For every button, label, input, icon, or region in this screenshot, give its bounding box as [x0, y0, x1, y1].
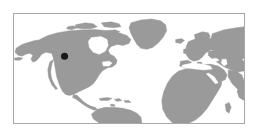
world-map-figure	[0, 0, 258, 138]
marker-layer-svg	[61, 53, 68, 60]
map-frame	[13, 13, 245, 124]
world-map-canvas	[14, 14, 244, 123]
location-marker-icon[interactable]	[61, 53, 68, 60]
